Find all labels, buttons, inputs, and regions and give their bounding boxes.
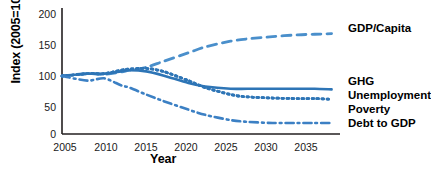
y-tick-150: 150 [22, 39, 56, 51]
x-tick-2035: 2035 [286, 141, 326, 153]
series-label-ghg: GHG [348, 75, 374, 87]
x-tick-2005: 2005 [45, 141, 85, 153]
x-axis-title: Year [150, 152, 176, 166]
series-label-debt-to-gdp: Debt to GDP [348, 117, 416, 129]
y-tick-0: 0 [22, 128, 56, 140]
x-tick-2020: 2020 [166, 141, 206, 153]
y-axis-title: Index (2005=100) [9, 0, 23, 95]
x-tick-2015: 2015 [126, 141, 166, 153]
x-tick-2025: 2025 [206, 141, 246, 153]
y-tick-100: 100 [22, 70, 56, 82]
y-tick-50: 50 [22, 101, 56, 113]
series-label-unemployment: Unemployment [348, 89, 431, 101]
series-line-poverty [62, 68, 332, 99]
x-tick-2010: 2010 [86, 141, 126, 153]
series-label-poverty: Poverty [348, 103, 390, 115]
x-tick-2030: 2030 [246, 141, 286, 153]
series-label-gdp-per-capita: GDP/Capita [348, 22, 411, 34]
y-tick-200: 200 [22, 8, 56, 20]
series-line-gdp-capita [62, 34, 332, 76]
